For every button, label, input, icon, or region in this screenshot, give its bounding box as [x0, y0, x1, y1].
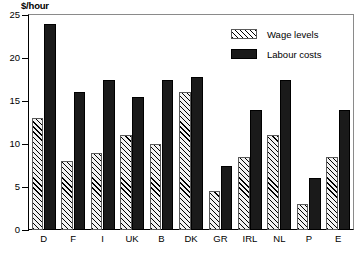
- bar-labour-costs: [103, 80, 115, 231]
- x-axis-tick-label: B: [147, 233, 176, 244]
- x-axis-tick-label: NL: [265, 233, 294, 244]
- hatched-swatch-icon: [231, 29, 257, 39]
- bar-group: [32, 15, 56, 230]
- y-axis-tick-label: 0: [0, 225, 20, 235]
- bar-labour-costs: [74, 92, 86, 230]
- legend-label: Labour costs: [267, 49, 321, 60]
- bar-labour-costs: [250, 110, 262, 230]
- bar-group: [61, 15, 85, 230]
- bar-group: [150, 15, 174, 230]
- y-axis-tick-label: 15: [0, 96, 20, 106]
- x-axis-tick-label: UK: [117, 233, 146, 244]
- y-axis-tick: [22, 187, 29, 188]
- solid-black-swatch-icon: [231, 49, 257, 59]
- bar-wage-levels: [297, 204, 309, 230]
- y-axis-tick: [22, 58, 29, 59]
- bar-labour-costs: [339, 110, 351, 230]
- y-axis-tick-label: 10: [0, 139, 20, 149]
- x-axis-tick-label: F: [58, 233, 87, 244]
- bar-group: [91, 15, 115, 230]
- bar-wage-levels: [267, 135, 279, 230]
- y-axis-tick-label: 20: [0, 53, 20, 63]
- x-axis-labels: DFIUKBDKGRIRLNLPE: [29, 233, 353, 251]
- bar-labour-costs: [221, 166, 233, 231]
- bar-chart: $/hour 0510152025 DFIUKBDKGRIRLNLPE Wage…: [0, 0, 363, 267]
- bar-wage-levels: [179, 92, 191, 230]
- legend-label: Wage levels: [267, 29, 318, 40]
- y-axis-tick: [22, 230, 29, 231]
- y-axis-tick: [22, 15, 29, 16]
- bar-wage-levels: [238, 157, 250, 230]
- bar-labour-costs: [191, 77, 203, 230]
- bar-labour-costs: [132, 97, 144, 230]
- x-axis-tick-label: E: [324, 233, 353, 244]
- x-axis-tick-label: GR: [206, 233, 235, 244]
- chart-legend: Wage levels Labour costs: [231, 26, 351, 66]
- legend-item-labour-costs: Labour costs: [231, 46, 351, 62]
- y-axis-tick-label: 25: [0, 10, 20, 20]
- y-axis-unit-title: $/hour: [21, 0, 49, 11]
- bar-labour-costs: [280, 80, 292, 231]
- bar-group: [209, 15, 233, 230]
- x-axis-tick-label: D: [29, 233, 58, 244]
- bar-wage-levels: [209, 191, 221, 230]
- x-axis-tick-label: P: [294, 233, 323, 244]
- y-axis-tick: [22, 144, 29, 145]
- bar-wage-levels: [61, 161, 73, 230]
- x-axis-tick-label: IRL: [235, 233, 264, 244]
- bar-group: [120, 15, 144, 230]
- y-axis-tick-label: 5: [0, 182, 20, 192]
- x-axis-tick-label: I: [88, 233, 117, 244]
- legend-item-wage-levels: Wage levels: [231, 26, 351, 42]
- bar-wage-levels: [326, 157, 338, 230]
- bar-group: [179, 15, 203, 230]
- x-axis-tick-label: DK: [176, 233, 205, 244]
- y-axis-tick: [22, 101, 29, 102]
- bar-wage-levels: [150, 144, 162, 230]
- bar-wage-levels: [120, 135, 132, 230]
- bar-labour-costs: [309, 178, 321, 230]
- bar-labour-costs: [44, 24, 56, 230]
- bar-wage-levels: [91, 153, 103, 230]
- bar-labour-costs: [162, 80, 174, 231]
- bar-wage-levels: [32, 118, 44, 230]
